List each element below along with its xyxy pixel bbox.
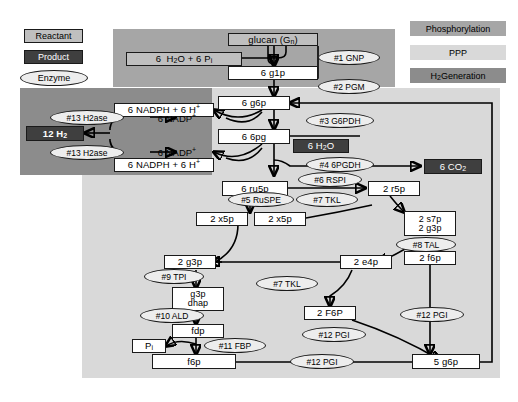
node-e4p: 2 e4p (340, 255, 392, 269)
node-nadp-bottom: 6 NADP+ (137, 145, 217, 159)
node-g3p-left: 2 g3p (164, 255, 216, 269)
node-nadph-bottom: 6 NADPH + 6 H+ (114, 158, 214, 172)
node-f6p-bottom: f6p (152, 354, 236, 369)
enzyme-9-tpi: #9 TPI (144, 269, 204, 284)
node-water-mid: 6 H2O (293, 139, 349, 153)
node-r5p: 2 r5p (368, 181, 420, 196)
enzyme-12-pgi-mid: #12 PGI (302, 327, 366, 342)
node-pi: Pi (132, 339, 166, 353)
pathway-diagram: Reactant Product Enzyme Phosphorylation … (0, 0, 518, 402)
legend-product: Product (24, 50, 83, 64)
node-fdp: fdp (172, 324, 224, 338)
node-h2: 12 H2 (26, 126, 84, 141)
node-water-pi: 6 H2O + 6 Pi (126, 52, 242, 66)
enzyme-10-ald: #10 ALD (140, 308, 204, 323)
enzyme-4-6pgdh: #4 6PGDH (306, 157, 374, 172)
enzyme-11-fbp: #11 FBP (204, 338, 266, 353)
node-6pg: 6 6pg (218, 129, 290, 144)
node-x5p-a: 2 x5p (196, 212, 248, 226)
legend-reactant: Reactant (24, 29, 83, 43)
node-g1p: 6 g1p (228, 66, 318, 80)
node-s7p-g3p: 2 s7p 2 g3p (404, 211, 456, 236)
enzyme-7-tkl-top: #7 TKL (296, 192, 358, 207)
node-g6p-bottom: 5 g6p (412, 354, 480, 369)
dhap-line: dhap (188, 299, 208, 308)
node-glucan: glucan (Gn) (228, 33, 318, 46)
enzyme-3-g6pdh: #3 G6PDH (306, 113, 374, 128)
enzyme-2-pgm: #2 PGM (318, 79, 380, 94)
legend-enzyme: Enzyme (20, 70, 88, 86)
enzyme-12-pgi-right: #12 PGI (400, 307, 464, 322)
node-f6p-mid: 2 F6P (304, 306, 356, 320)
node-x5p-b: 2 x5p (254, 212, 306, 226)
legend-h2-generation: H2 Generation (410, 68, 506, 83)
node-f6p-right: 2 f6p (404, 251, 456, 265)
enzyme-12-pgi-bottom: #12 PGI (290, 354, 354, 369)
enzyme-1-gnp: #1 GNP (318, 50, 380, 65)
enzyme-8-tal: #8 TAL (396, 237, 456, 252)
node-nadp-top: 6 NADP+ (137, 111, 217, 125)
node-g6p-top: 6 g6p (218, 96, 290, 110)
legend-ppp: PPP (410, 45, 506, 60)
enzyme-5-ru5pe: #5 RuSPE (228, 192, 294, 207)
node-co2: 6 CO2 (424, 159, 482, 174)
enzyme-7-tkl-bottom: #7 TKL (256, 276, 318, 291)
legend-phosphorylation: Phosphorylation (410, 21, 506, 36)
g3p-line: 2 g3p (418, 224, 441, 233)
enzyme-6-rspi: #6 RSPI (298, 172, 362, 187)
enzyme-13-h2ase-top: #13 H2ase (50, 110, 124, 125)
enzyme-13-h2ase-bottom: #13 H2ase (50, 145, 124, 160)
